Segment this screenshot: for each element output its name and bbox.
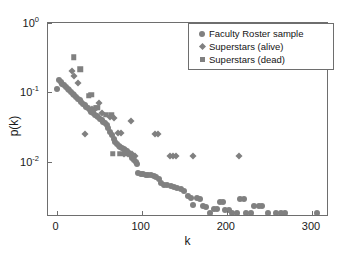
x-tick xyxy=(142,211,143,215)
square-data-point xyxy=(89,92,95,98)
x-tick xyxy=(227,211,228,215)
circle-data-point xyxy=(248,210,254,215)
circle-data-point xyxy=(282,210,288,215)
y-axis-label: p(k) xyxy=(7,96,21,156)
diamond-data-point xyxy=(189,153,196,160)
circle-data-point xyxy=(190,202,196,208)
circle-data-point xyxy=(214,206,220,212)
circle-data-point xyxy=(259,203,265,209)
legend-label: Superstars (dead) xyxy=(209,53,285,66)
x-tick xyxy=(57,211,58,215)
x-tick xyxy=(312,211,313,215)
diamond-data-point xyxy=(235,153,242,160)
square-marker-icon xyxy=(195,57,209,62)
circle-data-point xyxy=(241,196,247,202)
x-tick-label: 300 xyxy=(302,220,320,232)
x-tick-label: 200 xyxy=(217,220,235,232)
y-tick-label: 100 xyxy=(0,15,42,29)
legend: Faculty Roster sample Superstars (alive)… xyxy=(188,23,334,70)
square-data-point xyxy=(118,151,124,157)
circle-data-point xyxy=(265,210,271,215)
x-tick-label: 100 xyxy=(131,220,149,232)
diamond-data-point xyxy=(81,131,88,138)
square-data-point xyxy=(95,105,101,111)
circle-data-point xyxy=(134,161,140,167)
scatter-plot-figure: 0100200300 100 10-1 10-2 k p(k) Faculty … xyxy=(0,0,344,262)
circle-data-point xyxy=(197,196,203,202)
y-tick xyxy=(48,162,52,163)
circle-data-point xyxy=(234,210,240,215)
square-data-point xyxy=(124,151,130,157)
circle-data-point xyxy=(314,210,320,215)
legend-entry-superstars-dead: Superstars (dead) xyxy=(195,53,329,66)
legend-entry-faculty-roster-sample: Faculty Roster sample xyxy=(195,27,329,40)
legend-entry-superstars-alive: Superstars (alive) xyxy=(195,40,329,53)
square-data-point xyxy=(110,151,116,157)
diamond-data-point xyxy=(74,79,81,86)
legend-label: Faculty Roster sample xyxy=(209,27,304,40)
y-tick xyxy=(48,23,52,24)
square-data-point xyxy=(78,67,84,73)
circle-data-point xyxy=(54,86,60,92)
x-axis-label: k xyxy=(47,234,328,248)
circle-marker-icon xyxy=(195,31,209,37)
y-tick xyxy=(48,92,52,93)
diamond-data-point xyxy=(127,117,134,124)
square-data-point xyxy=(71,55,77,61)
x-tick-label: 0 xyxy=(52,220,58,232)
circle-data-point xyxy=(220,199,226,205)
legend-label: Superstars (alive) xyxy=(209,40,283,53)
diamond-marker-icon xyxy=(195,44,209,49)
square-data-point xyxy=(108,112,114,118)
